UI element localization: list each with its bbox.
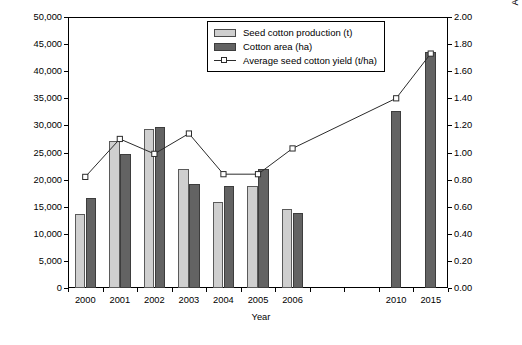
x-axis-label: Year bbox=[0, 312, 522, 322]
y-tick-label-left: 10,000 bbox=[34, 229, 62, 239]
yield-marker bbox=[290, 146, 295, 151]
y-tick-label-right: 2.00 bbox=[454, 12, 472, 22]
x-tick-label: 2004 bbox=[213, 295, 234, 305]
yield-line-segment bbox=[396, 54, 431, 99]
x-tick-mark bbox=[103, 288, 104, 292]
yield-line-segment bbox=[293, 98, 397, 148]
x-tick-label: 2006 bbox=[282, 295, 303, 305]
yield-marker bbox=[186, 131, 191, 136]
legend-swatch-area-icon bbox=[214, 43, 236, 51]
legend-swatch-yield-icon bbox=[214, 56, 236, 65]
figure: 05,00010,00015,00020,00025,00030,00035,0… bbox=[0, 0, 522, 345]
yield-line-segment bbox=[258, 148, 293, 174]
yield-marker bbox=[394, 96, 399, 101]
legend: Seed cotton production (t) Cotton area (… bbox=[207, 21, 385, 72]
y-axis-right-label: Average seed cotton yield (t/ha) bbox=[510, 0, 521, 40]
y-tick-label-left: 35,000 bbox=[34, 93, 62, 103]
y-tick-label-right: 0.20 bbox=[454, 256, 472, 266]
y-tick-mark-right bbox=[448, 98, 452, 99]
x-tick-mark bbox=[310, 288, 311, 292]
legend-swatch-production-icon bbox=[214, 29, 236, 37]
y-tick-label-right: 0.80 bbox=[454, 175, 472, 185]
x-tick-label: 2002 bbox=[144, 295, 165, 305]
x-tick-label: 2010 bbox=[386, 295, 407, 305]
x-tick-label: 2003 bbox=[179, 295, 200, 305]
x-tick-mark bbox=[68, 288, 69, 292]
yield-line-segment bbox=[85, 139, 120, 177]
y-tick-label-left: 20,000 bbox=[34, 175, 62, 185]
y-tick-label-right: 0.00 bbox=[454, 283, 472, 293]
x-tick-mark bbox=[413, 288, 414, 292]
yield-marker bbox=[255, 172, 260, 177]
y-tick-mark-right bbox=[448, 207, 452, 208]
y-tick-label-left: 45,000 bbox=[34, 39, 62, 49]
x-tick-mark bbox=[344, 288, 345, 292]
y-tick-label-right: 1.80 bbox=[454, 39, 472, 49]
x-tick-mark bbox=[137, 288, 138, 292]
x-tick-label: 2000 bbox=[75, 295, 96, 305]
x-tick-mark bbox=[206, 288, 207, 292]
y-tick-label-left: 25,000 bbox=[34, 148, 62, 158]
y-tick-label-right: 1.40 bbox=[454, 93, 472, 103]
y-tick-mark-right bbox=[448, 71, 452, 72]
y-tick-mark-right bbox=[448, 180, 452, 181]
y-tick-label-left: 50,000 bbox=[34, 12, 62, 22]
legend-label-production: Seed cotton production (t) bbox=[243, 27, 352, 38]
y-tick-label-right: 1.00 bbox=[454, 148, 472, 158]
yield-line-segment bbox=[189, 134, 224, 175]
y-tick-label-left: 0 bbox=[57, 283, 62, 293]
y-tick-label-left: 15,000 bbox=[34, 202, 62, 212]
x-tick-mark bbox=[448, 288, 449, 292]
y-tick-mark-right bbox=[448, 234, 452, 235]
yield-line-segment bbox=[120, 139, 155, 154]
x-tick-label: 2005 bbox=[248, 295, 269, 305]
y-tick-label-left: 30,000 bbox=[34, 120, 62, 130]
y-tick-mark-right bbox=[448, 153, 452, 154]
x-tick-mark bbox=[172, 288, 173, 292]
y-tick-mark-right bbox=[448, 44, 452, 45]
legend-item-area: Cotton area (ha) bbox=[214, 40, 377, 53]
yield-marker bbox=[83, 174, 88, 179]
yield-marker bbox=[152, 151, 157, 156]
yield-marker bbox=[221, 172, 226, 177]
y-tick-label-right: 0.40 bbox=[454, 229, 472, 239]
x-tick-mark bbox=[241, 288, 242, 292]
y-tick-mark-right bbox=[448, 17, 452, 18]
y-tick-mark-right bbox=[448, 261, 452, 262]
y-tick-label-left: 40,000 bbox=[34, 66, 62, 76]
yield-marker bbox=[117, 136, 122, 141]
yield-marker bbox=[428, 51, 433, 56]
y-tick-label-right: 1.60 bbox=[454, 66, 472, 76]
legend-item-production: Seed cotton production (t) bbox=[214, 26, 377, 39]
legend-item-yield: Average seed cotton yield (t/ha) bbox=[214, 54, 377, 67]
x-tick-mark bbox=[275, 288, 276, 292]
y-tick-label-right: 0.60 bbox=[454, 202, 472, 212]
legend-label-yield: Average seed cotton yield (t/ha) bbox=[243, 55, 377, 66]
x-tick-label: 2015 bbox=[420, 295, 441, 305]
x-tick-mark bbox=[379, 288, 380, 292]
y-tick-label-right: 1.20 bbox=[454, 120, 472, 130]
y-tick-mark-right bbox=[448, 125, 452, 126]
y-tick-label-left: 5,000 bbox=[39, 256, 62, 266]
x-tick-label: 2001 bbox=[109, 295, 130, 305]
legend-label-area: Cotton area (ha) bbox=[243, 41, 312, 52]
yield-line-segment bbox=[154, 134, 189, 154]
